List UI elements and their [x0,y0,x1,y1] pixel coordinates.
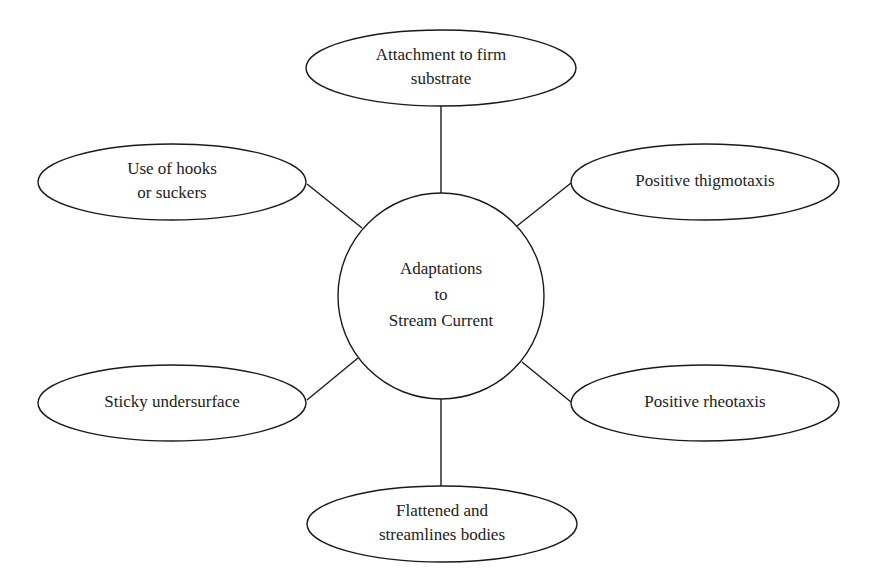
connector-rheotaxis [522,362,571,402]
connector-sticky [307,358,358,400]
connector-thigmotaxis [517,183,571,226]
node-rheotaxis: Positive rheotaxis [571,365,839,441]
node-flattened-label-line: Flattened and [396,501,489,520]
node-hooks-label-line: or suckers [137,183,206,202]
node-hooks-label-line: Use of hooks [127,159,217,178]
center-label-line: Adaptations [400,259,482,278]
center-node: AdaptationstoStream Current [338,193,544,399]
node-flattened-label-line: streamlines bodies [379,525,505,544]
node-thigmotaxis-label-line: Positive thigmotaxis [635,171,774,190]
node-attachment-label-line: Attachment to firm [376,45,506,64]
node-rheotaxis-label-line: Positive rheotaxis [644,392,765,411]
node-sticky: Sticky undersurface [38,365,306,441]
center-label-line: Stream Current [389,311,494,330]
adaptations-mind-map: Attachment to firmsubstrateUse of hookso… [0,0,874,588]
node-sticky-label-line: Sticky undersurface [104,392,239,411]
node-flattened: Flattened andstreamlines bodies [307,486,577,562]
node-attachment: Attachment to firmsubstrate [306,30,576,106]
node-attachment-label-line: substrate [411,69,471,88]
connector-hooks [307,184,362,228]
center-label-line: to [434,285,447,304]
node-hooks: Use of hooksor suckers [38,144,306,220]
node-thigmotaxis: Positive thigmotaxis [571,144,839,220]
